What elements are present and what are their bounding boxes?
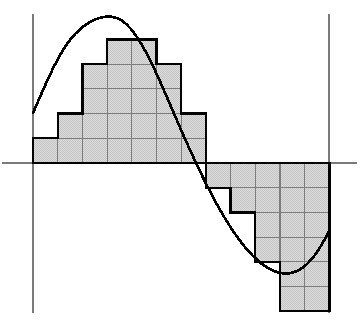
mask-a8 — [206, 14, 330, 163]
mask-a1 — [33, 14, 58, 138]
mask-b1 — [33, 163, 206, 313]
riemann-sum-diagram — [0, 0, 360, 329]
mask-a7 — [181, 14, 206, 114]
mask-a3 — [82, 14, 107, 64]
mask-a6 — [157, 14, 182, 64]
mask-b5 — [280, 311, 329, 329]
mask-b3 — [231, 212, 256, 313]
riemann-sum-figure — [0, 0, 360, 329]
mask-b4 — [255, 262, 280, 314]
